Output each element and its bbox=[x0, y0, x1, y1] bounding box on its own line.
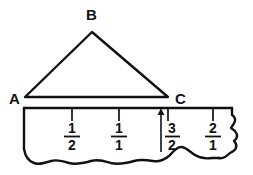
fraction-denominator: 1 bbox=[115, 137, 123, 153]
vertex-label-a: A bbox=[9, 90, 20, 107]
fraction-denominator: 2 bbox=[168, 137, 176, 153]
triangle-abc bbox=[25, 32, 168, 97]
fraction-numerator: 3 bbox=[168, 120, 176, 136]
fraction-denominator: 1 bbox=[209, 137, 217, 153]
vertex-label-c: C bbox=[175, 90, 186, 107]
vertex-label-b: B bbox=[86, 6, 97, 23]
fraction-denominator: 2 bbox=[68, 137, 76, 153]
fraction-ruler: 1 2 1 1 3 2 2 1 bbox=[24, 108, 237, 166]
fraction-numerator: 1 bbox=[115, 120, 123, 136]
triangle-outline bbox=[25, 32, 168, 97]
figure-canvas: A B C bbox=[0, 0, 253, 175]
fraction-numerator: 2 bbox=[209, 120, 217, 136]
fraction-numerator: 1 bbox=[68, 120, 76, 136]
figure-root: A B C bbox=[0, 0, 253, 175]
